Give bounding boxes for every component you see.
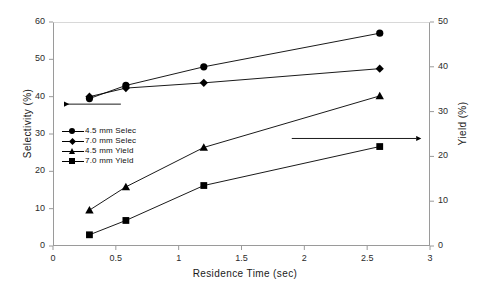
legend-marker-triangle-icon (62, 146, 84, 156)
legend-item[interactable]: 4.5 mm Yield (62, 146, 136, 156)
legend-label: 4.5 mm Selec (84, 126, 136, 136)
legend-marker-circle-icon (62, 126, 84, 136)
chart-figure: Selectivity (%) Yield (%) Residence Time… (0, 0, 487, 290)
data-point (376, 143, 383, 150)
data-point (122, 217, 129, 224)
data-point (200, 79, 208, 87)
legend-label: 7.0 mm Yield (84, 156, 134, 166)
legend-label: 7.0 mm Selec (84, 136, 136, 146)
data-series (85, 65, 383, 101)
data-point (200, 63, 207, 70)
data-point (85, 206, 93, 214)
data-point (376, 65, 384, 73)
legend-item[interactable]: 7.0 mm Selec (62, 136, 136, 146)
legend-item[interactable]: 4.5 mm Selec (62, 126, 136, 136)
legend: 4.5 mm Selec7.0 mm Selec4.5 mm Yield7.0 … (62, 126, 136, 166)
data-point (376, 92, 384, 100)
data-point (376, 30, 383, 37)
data-point (122, 183, 130, 191)
legend-label: 4.5 mm Yield (84, 146, 134, 156)
legend-item[interactable]: 7.0 mm Yield (62, 156, 136, 166)
data-point (200, 182, 207, 189)
legend-marker-square-icon (62, 156, 84, 166)
data-point (86, 231, 93, 238)
data-series (86, 30, 383, 103)
legend-marker-diamond-icon (62, 136, 84, 146)
